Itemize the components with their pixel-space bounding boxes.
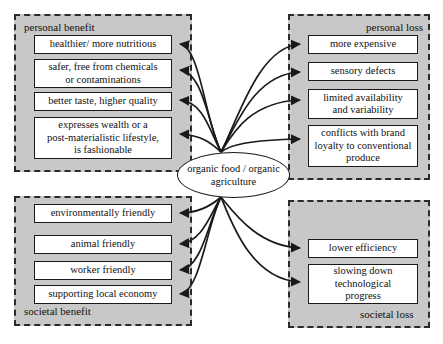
node-line: environmentally friendly [38,207,168,220]
panel-label-societal-benefit: societal benefit [24,305,91,318]
node-line: better taste, higher quality [38,95,168,108]
node-line: progress [333,290,392,303]
node-sensory-defects: sensory defects [308,62,418,81]
node-better-taste-higher-quality: better taste, higher quality [34,92,172,111]
node-line: slowing down [333,265,392,278]
node-limited-availability: limited availability and variability [308,89,418,119]
node-slowing-down-technological-progress: slowing down technological progress [308,264,418,304]
node-healthier-more-nutritious: healthier/ more nutritious [34,35,172,54]
node-line: technological [333,278,392,291]
node-line: sensory defects [312,65,414,78]
node-line: loyalty to conventional produce [312,140,414,165]
node-line: healthier/ more nutritious [38,38,168,51]
panel-label-societal-loss: societal loss [360,308,413,321]
center-node-line-1: organic food / [187,163,246,174]
node-line: or contaminations [48,74,157,87]
node-line: conflicts with brand [312,127,414,140]
node-line: lower efficiency [312,242,414,255]
node-line: supporting local economy [38,288,168,301]
node-environmentally-friendly: environmentally friendly [34,204,172,223]
node-conflicts-with-brand-loyalty: conflicts with brand loyalty to conventi… [308,125,418,167]
panel-label-personal-loss: personal loss [366,21,423,34]
node-line: and variability [323,104,403,117]
node-line: more expensive [312,38,414,51]
node-line: is fashionable [47,144,159,157]
node-line: limited availability [323,92,403,105]
node-worker-friendly: worker friendly [34,261,172,280]
node-safer-free-from-chemicals: safer, free from chemicals or contaminat… [34,59,172,88]
node-line: post-materialistic lifestyle, [47,132,159,145]
node-expresses-wealth: expresses wealth or a post-materialistic… [34,117,172,159]
node-lower-efficiency: lower efficiency [308,239,418,258]
node-line: expresses wealth or a [47,119,159,132]
center-node-organic-food: organic food / organic agriculture [177,152,290,198]
panel-label-personal-benefit: personal benefit [24,21,95,34]
node-line: worker friendly [38,264,168,277]
node-supporting-local-economy: supporting local economy [34,285,172,304]
node-animal-friendly: animal friendly [34,235,172,254]
node-line: safer, free from chemicals [48,61,157,74]
node-more-expensive: more expensive [308,35,418,54]
diagram-canvas: personal benefit personal loss societal … [0,0,443,344]
node-line: animal friendly [38,238,168,251]
